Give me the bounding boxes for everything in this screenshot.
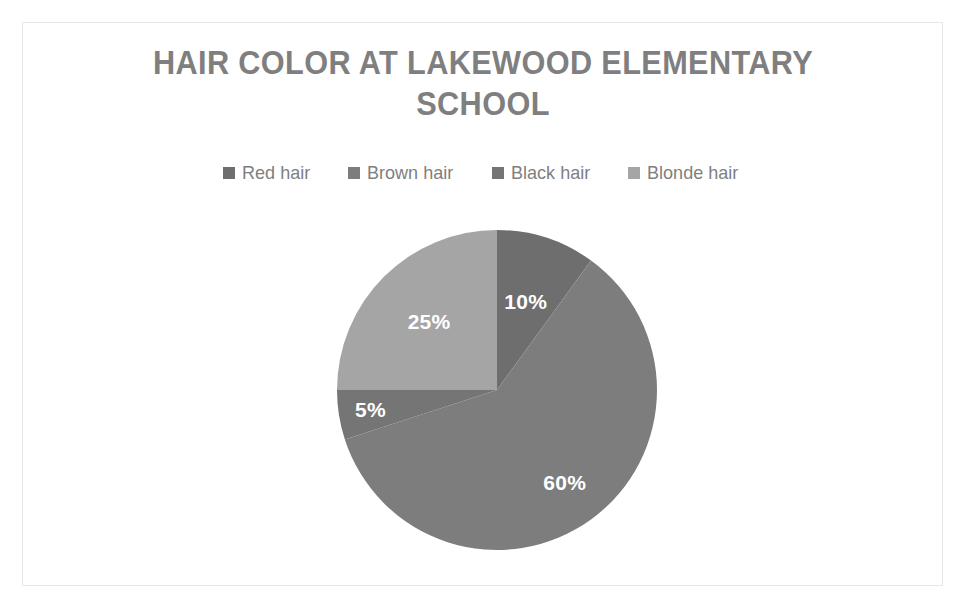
chart-canvas: HAIR COLOR AT LAKEWOOD ELEMENTARY SCHOOL… [0, 0, 966, 615]
legend-item-black-hair[interactable]: Black hair [492, 163, 594, 183]
legend-swatch-brown-hair [348, 167, 360, 179]
chart-title-line-2: SCHOOL [416, 85, 550, 122]
legend-swatch-blonde-hair [628, 167, 640, 179]
legend-swatch-red-hair [223, 167, 235, 179]
legend-swatch-black-hair [492, 167, 504, 179]
legend-item-red-hair[interactable]: Red hair [223, 163, 314, 183]
legend-label-blonde-hair: Blonde hair [647, 163, 738, 183]
legend-label-brown-hair: Brown hair [367, 163, 453, 183]
legend-item-blonde-hair[interactable]: Blonde hair [628, 163, 743, 183]
chart-title-line-1: HAIR COLOR AT LAKEWOOD ELEMENTARY [153, 44, 813, 81]
legend-item-brown-hair[interactable]: Brown hair [348, 163, 458, 183]
legend-label-red-hair: Red hair [242, 163, 310, 183]
chart-title: HAIR COLOR AT LAKEWOOD ELEMENTARY SCHOOL [118, 42, 849, 124]
chart-legend: Red hair Brown hair Black hair Blonde ha… [0, 163, 966, 183]
legend-label-black-hair: Black hair [511, 163, 590, 183]
